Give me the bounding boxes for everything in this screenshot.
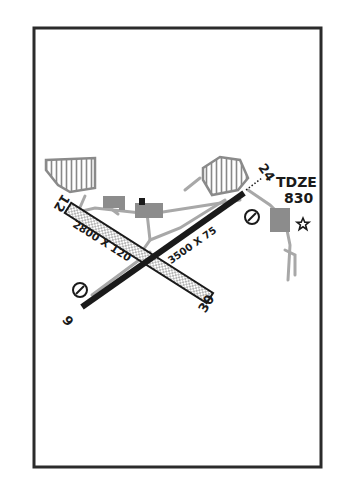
tdze-value: 830	[284, 190, 313, 206]
star-icon	[297, 218, 309, 230]
airport-diagram: 12 2800 X 120 3500 X 75 6 30 24 TDZE 830	[0, 0, 337, 479]
no-entry-circle-icon	[245, 210, 259, 224]
no-entry-circle-icon	[73, 283, 87, 297]
runway-6-label: 6	[60, 313, 77, 329]
runway-24-label: 24	[255, 161, 278, 184]
approach-dotted-line	[246, 178, 262, 190]
hangar-row-east	[203, 157, 248, 195]
hangar-row-west	[46, 158, 95, 192]
tdze-label: TDZE	[276, 174, 317, 190]
